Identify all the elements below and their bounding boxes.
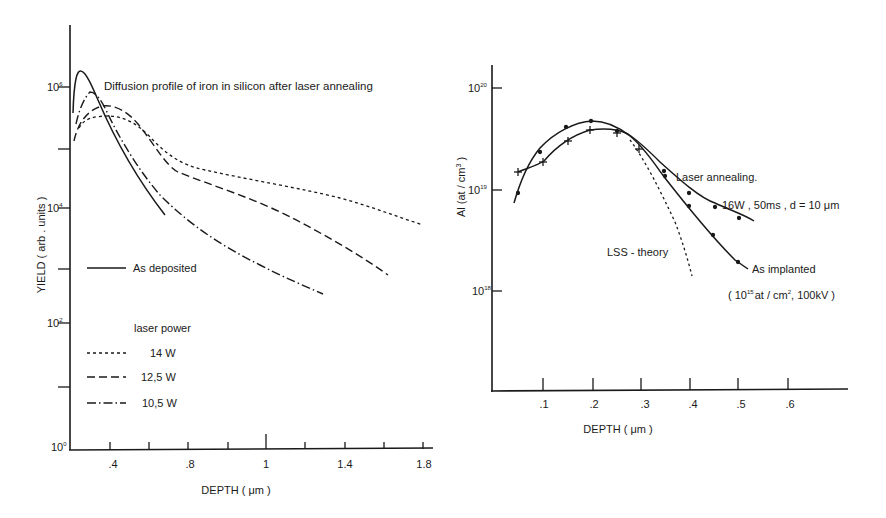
legend-label-12-5w: 12,5 W [141,371,176,383]
curve-as-deposited [73,71,165,215]
svg-text:.2: .2 [589,398,598,410]
svg-text:.6: .6 [785,398,794,410]
svg-text:1: 1 [263,458,269,470]
right-y-axis-label: Al (at / cm3 ) [455,157,467,217]
svg-text:.5: .5 [736,398,745,410]
right-y-ticks [492,88,502,291]
svg-text:.8: .8 [185,458,194,470]
left-y-ticks [58,87,70,387]
legend-label-10-5w: 10,5 W [142,397,177,409]
left-ytick-1e0: 100 [51,441,67,453]
legend-label-14w: 14 W [150,347,176,359]
svg-text:1.4: 1.4 [337,458,352,470]
right-ytick-1e18: 1018 [472,285,492,297]
right-chart: 1020 1019 1018 .1 .2 .3 .4 .5 .6 DEPTH (… [455,65,848,435]
svg-text:.4: .4 [688,398,697,410]
left-legend: As deposited laser power 14 W 12,5 W 10,… [87,262,197,409]
annotation-as-implanted: As implanted [752,263,816,275]
right-x-ticks [543,378,788,390]
legend-header: laser power [134,322,191,334]
annotation-implant-dose: ( 1015at / cm2, 100kV ) [728,289,835,301]
left-chart-title: Diffusion profile of iron in silicon aft… [104,80,373,92]
left-xtick-labels: .4 .8 1 1.4 1.8 [108,458,431,470]
right-xtick-labels: .1 .2 .3 .4 .5 .6 [539,398,794,410]
svg-text:.3: .3 [640,398,649,410]
annotation-laser-annealing: Laser annealing. [676,171,757,183]
annotation-lss-theory: LSS - theory [607,246,669,258]
left-y-axis-label: YIELD ( arb . units ) [35,197,47,294]
svg-text:.1: .1 [539,398,548,410]
right-ytick-1e20: 1020 [468,82,488,94]
left-chart: 106 104 102 100 .4 .8 1 1.4 1.8 DEPTH ( … [35,25,433,496]
annotation-laser-params: 16W , 50ms , d = 10 μm [722,199,839,211]
svg-text:1.8: 1.8 [416,458,431,470]
right-x-axis-label: DEPTH ( μm ) [583,423,652,435]
left-x-ticks [110,434,423,449]
right-ytick-1e19: 1019 [468,184,488,196]
right-x-axis [491,389,848,391]
left-x-axis-label: DEPTH ( μm ) [201,484,270,496]
legend-label-as-deposited: As deposited [133,262,197,274]
svg-text:.4: .4 [108,458,117,470]
figure: 106 104 102 100 .4 .8 1 1.4 1.8 DEPTH ( … [0,0,886,518]
curve-14w [79,116,423,225]
curve-10-5w [76,92,323,294]
left-x-axis [69,448,433,450]
